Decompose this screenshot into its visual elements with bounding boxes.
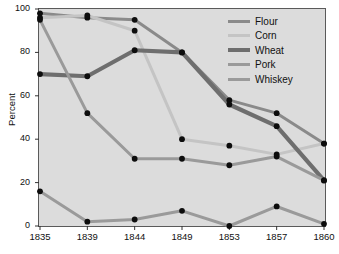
legend-item-wheat: Wheat — [228, 43, 320, 58]
data-point-pork-1849 — [179, 156, 185, 162]
data-point-corn-1839 — [84, 13, 90, 19]
legend-item-corn: Corn — [228, 29, 320, 44]
data-point-whiskey-1835 — [37, 188, 43, 194]
y-tick-label: 0 — [4, 221, 30, 230]
legend-swatch-wheat — [228, 48, 250, 52]
y-axis-title: Percent — [6, 75, 17, 145]
data-point-wheat-1849 — [179, 50, 185, 56]
legend-label: Wheat — [255, 45, 284, 56]
data-point-wheat-1844 — [132, 47, 138, 53]
x-tick-label: 1844 — [115, 232, 155, 242]
x-tick-label: 1857 — [257, 232, 297, 242]
data-point-pork-1857 — [274, 154, 280, 160]
data-point-whiskey-1839 — [84, 219, 90, 225]
legend-label: Whiskey — [255, 74, 293, 85]
data-point-pork-1835 — [37, 17, 43, 23]
data-point-corn-1860 — [321, 141, 327, 147]
data-point-whiskey-1860 — [321, 221, 327, 227]
x-tick-label: 1839 — [67, 232, 107, 242]
legend-swatch-pork — [228, 63, 250, 66]
legend-label: Pork — [255, 59, 276, 70]
legend-item-whiskey: Whiskey — [228, 72, 320, 87]
legend-item-pork: Pork — [228, 58, 320, 73]
data-point-wheat-1857 — [274, 123, 280, 129]
legend-swatch-whiskey — [228, 78, 250, 81]
data-point-pork-1839 — [84, 110, 90, 116]
data-point-whiskey-1853 — [226, 223, 232, 229]
data-point-flour-1844 — [132, 17, 138, 23]
data-point-wheat-1853 — [226, 102, 232, 108]
legend-swatch-corn — [228, 34, 250, 37]
legend-item-flour: Flour — [228, 14, 320, 29]
y-tick-label: 80 — [4, 47, 30, 56]
y-tick-label: 20 — [4, 178, 30, 187]
legend-label: Flour — [255, 16, 278, 27]
legend-swatch-flour — [228, 20, 250, 23]
data-point-corn-1849 — [179, 136, 185, 142]
legend-label: Corn — [255, 30, 277, 41]
data-point-whiskey-1857 — [274, 204, 280, 210]
line-chart: 020406080100 183518391844184918531857186… — [0, 0, 339, 254]
data-point-corn-1853 — [226, 143, 232, 149]
data-point-wheat-1839 — [84, 73, 90, 79]
data-point-pork-1853 — [226, 162, 232, 168]
y-tick-label: 100 — [4, 4, 30, 13]
data-point-corn-1844 — [132, 28, 138, 34]
x-tick-label: 1853 — [209, 232, 249, 242]
data-point-pork-1860 — [321, 178, 327, 184]
data-point-wheat-1835 — [37, 71, 43, 77]
data-point-whiskey-1849 — [179, 208, 185, 214]
x-tick-label: 1860 — [304, 232, 339, 242]
data-point-flour-1857 — [274, 110, 280, 116]
x-tick-label: 1835 — [20, 232, 60, 242]
data-point-whiskey-1844 — [132, 217, 138, 223]
x-tick-label: 1849 — [162, 232, 202, 242]
chart-legend: FlourCornWheatPorkWhiskey — [228, 14, 320, 87]
data-point-pork-1844 — [132, 156, 138, 162]
